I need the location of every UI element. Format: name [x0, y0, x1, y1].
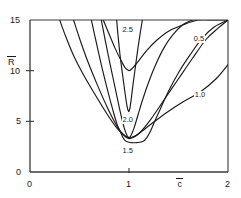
curve-label-2.5: 2.5 [122, 26, 133, 34]
curve-label-0.5: 0.5 [193, 35, 204, 43]
x-tick-label-2: 2 [225, 180, 230, 189]
x-axis-title: c [177, 180, 182, 189]
curve-label-2.0: 2.0 [122, 116, 133, 124]
y-tick-label-0: 0 [16, 168, 21, 177]
curve-label-1.5: 1.5 [122, 147, 133, 155]
y-axis-title: R [8, 58, 15, 67]
x-tick-label-1: 1 [126, 180, 131, 189]
y-tick-label-15: 15 [10, 16, 20, 25]
curve-1.0 [74, 20, 228, 139]
x-axis-title-text: c [177, 180, 182, 189]
curve-label-1.0: 1.0 [194, 91, 205, 99]
axis-ticks [26, 71, 129, 173]
chart-figure: 15 10 5 0 0 1 2 R c 2.50.51.02.01.5 [0, 0, 241, 198]
chart-plot-svg [0, 0, 241, 198]
y-tick-label-5: 5 [16, 117, 21, 126]
y-tick-label-10: 10 [10, 67, 20, 76]
x-tick-label-0: 0 [27, 180, 32, 189]
y-axis-title-text: R [8, 58, 15, 67]
